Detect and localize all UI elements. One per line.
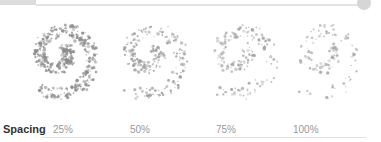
spiral-preview-25 bbox=[10, 12, 110, 112]
slider-knob[interactable] bbox=[357, 0, 371, 10]
spacing-value-75: 75% bbox=[216, 124, 236, 135]
slider-fill bbox=[0, 0, 36, 5]
spacing-title: Spacing bbox=[3, 123, 46, 135]
spacing-value-50: 50% bbox=[130, 124, 150, 135]
spacing-value-100: 100% bbox=[293, 124, 319, 135]
spacing-value-25: 25% bbox=[53, 124, 73, 135]
spiral-preview-100 bbox=[275, 12, 375, 112]
labels-divider bbox=[42, 137, 366, 138]
stroke-previews bbox=[0, 12, 381, 112]
spiral-preview-50 bbox=[100, 12, 200, 112]
spacing-labels: Spacing 25% 50% 75% 100% bbox=[0, 123, 381, 139]
slider-track[interactable] bbox=[36, 4, 362, 6]
